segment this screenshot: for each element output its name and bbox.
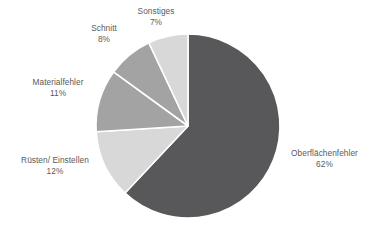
pie-label-name: Oberflächenfehler bbox=[275, 148, 374, 159]
pie-label-materialfehler: Materialfehler 11% bbox=[9, 77, 107, 98]
pie-label-name: Rüsten/ Einstellen bbox=[0, 155, 111, 166]
pie-label-value: 12% bbox=[0, 166, 111, 177]
pie-label-oberflaechenfehler: Oberflächenfehler 62% bbox=[275, 148, 374, 169]
pie-label-value: 7% bbox=[118, 17, 194, 28]
pie-label-name: Sonstiges bbox=[118, 6, 194, 17]
pie-chart-figure: Oberflächenfehler 62% Rüsten/ Einstellen… bbox=[0, 0, 374, 227]
pie-label-value: 62% bbox=[275, 159, 374, 170]
pie-label-sonstiges: Sonstiges 7% bbox=[118, 6, 194, 27]
pie-chart-svg bbox=[0, 0, 374, 227]
pie-label-name: Materialfehler bbox=[9, 77, 107, 88]
pie-slice-group bbox=[96, 34, 280, 218]
pie-label-value: 8% bbox=[66, 34, 142, 45]
pie-label-ruesten-einstellen: Rüsten/ Einstellen 12% bbox=[0, 155, 111, 176]
pie-label-value: 11% bbox=[9, 88, 107, 99]
